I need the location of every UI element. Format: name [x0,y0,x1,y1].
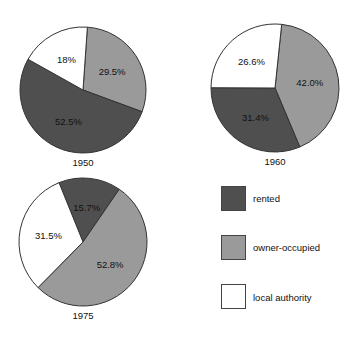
slice-label-rented: 15.7% [73,202,100,213]
slice-label-local-authority: 31.5% [35,230,62,241]
pie-charts: 29.5%52.5%18%195042.0%31.4%26.6%196015.7… [0,0,355,337]
slice-label-rented: 31.4% [242,112,269,123]
slice-label-local-authority: 18% [57,54,77,65]
pie-year-label: 1960 [264,156,285,167]
slice-label-owner-occupied: 42.0% [296,77,323,88]
legend-swatch-owner-occupied [221,235,246,260]
legend-swatch-rented [221,186,246,211]
legend-label-rented: rented [253,193,280,204]
legend-label-local-authority: local authority [253,292,312,303]
pie-1950: 29.5%52.5%18%1950 [20,27,146,168]
legend-label-owner-occupied: owner-occupied [253,242,320,253]
slice-label-owner-occupied: 29.5% [99,66,126,77]
pie-1960: 42.0%31.4%26.6%1960 [211,24,339,167]
legend-swatch-local-authority [221,284,246,309]
pie-year-label: 1975 [72,310,93,321]
pie-1975: 15.7%52.8%31.5%1975 [19,178,147,321]
slice-label-rented: 52.5% [55,116,82,127]
slice-label-owner-occupied: 52.8% [97,259,124,270]
slice-label-local-authority: 26.6% [238,56,265,67]
pie-year-label: 1950 [72,157,93,168]
